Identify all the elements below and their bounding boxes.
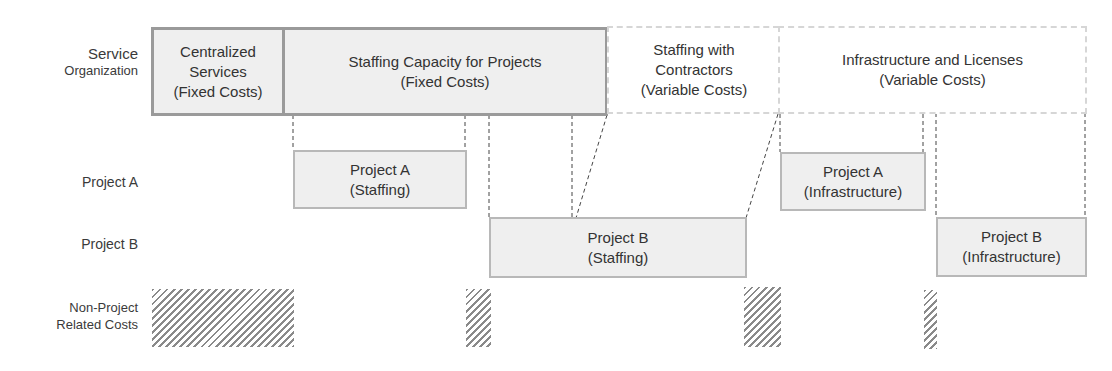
box-staffing-capacity-line1: Staffing Capacity for Projects [348, 52, 541, 72]
box-centralized-line3: (Fixed Costs) [173, 82, 262, 102]
box-project-b-staffing: Project B (Staffing) [489, 217, 747, 278]
box-infra-line1: Infrastructure and Licenses [842, 50, 1023, 70]
box-project-b-infra-line2: (Infrastructure) [962, 247, 1060, 267]
hatch-non-project-contractors [744, 287, 781, 347]
box-project-a-staffing-line1: Project A [350, 160, 410, 180]
box-centralized-line1: Centralized [180, 42, 256, 62]
box-staffing-capacity: Staffing Capacity for Projects (Fixed Co… [282, 27, 608, 116]
box-staffing-contractors: Staffing with Contractors (Variable Cost… [607, 26, 779, 114]
box-centralized-services: Centralized Services (Fixed Costs) [151, 27, 285, 116]
box-centralized-line2: Services [189, 62, 247, 82]
box-project-a-staffing: Project A (Staffing) [293, 150, 467, 209]
box-project-b-infrastructure: Project B (Infrastructure) [936, 217, 1087, 277]
box-infrastructure-licenses: Infrastructure and Licenses (Variable Co… [778, 26, 1087, 114]
box-project-b-staffing-line2: (Staffing) [588, 248, 649, 268]
box-project-a-infrastructure: Project A (Infrastructure) [780, 152, 926, 211]
hatch-non-project-centralized [152, 289, 294, 347]
box-contractors-line3: (Variable Costs) [641, 80, 747, 100]
hatch-non-project-infrastructure [924, 290, 937, 349]
box-infra-line2: (Variable Costs) [879, 70, 985, 90]
box-contractors-line2: Contractors [655, 60, 733, 80]
box-project-a-infra-line1: Project A [823, 162, 883, 182]
hatch-non-project-staffing [466, 289, 491, 347]
box-project-a-infra-line2: (Infrastructure) [804, 182, 902, 202]
box-project-b-staffing-line1: Project B [588, 228, 649, 248]
box-project-b-infra-line1: Project B [981, 227, 1042, 247]
box-contractors-line1: Staffing with [653, 40, 734, 60]
box-project-a-staffing-line2: (Staffing) [350, 180, 411, 200]
box-staffing-capacity-line2: (Fixed Costs) [400, 72, 489, 92]
